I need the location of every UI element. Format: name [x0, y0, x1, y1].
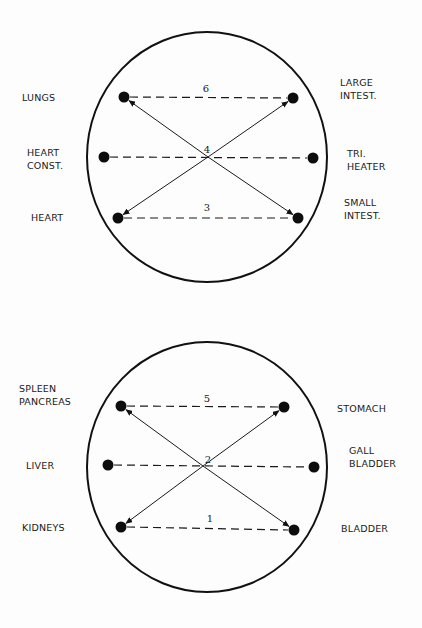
label-line: GALL: [349, 445, 375, 456]
heart-constrictor-dot: [99, 152, 110, 163]
bladder-label: BLADDER: [341, 523, 388, 534]
pair-number-label: 6: [203, 83, 209, 94]
label-line: BLADDER: [341, 523, 388, 534]
liver-label: LIVER: [26, 460, 54, 471]
diagram-top: 634LUNGSLARGEINTEST.HEARTCONST.TRI.HEATE…: [22, 32, 386, 282]
dashed-connector-liver-gall-bladder: [114, 465, 308, 467]
arrow-to-spleen-pancreas: [126, 410, 203, 466]
dashed-connector-kidneys-bladder: [127, 527, 288, 530]
label-line: LIVER: [26, 460, 54, 471]
label-line: INTEST.: [340, 90, 377, 101]
kidneys-label: KIDNEYS: [22, 522, 65, 533]
dashed-connector-lungs-large-intestine: [130, 97, 287, 98]
small-intestine-dot: [293, 213, 304, 224]
heart-dot: [113, 213, 124, 224]
label-line: TRI.: [346, 148, 366, 159]
lungs-dot: [119, 92, 130, 103]
label-line: CONST.: [27, 160, 63, 171]
arrow-to-kidneys: [126, 466, 203, 523]
pair-number-label: 1: [207, 513, 213, 524]
spleen-pancreas-dot: [116, 401, 127, 412]
label-line: KIDNEYS: [22, 522, 65, 533]
stomach-dot: [279, 402, 290, 413]
diagram-bottom: 512SPLEENPANCREASSTOMACHLIVERGALLBLADDER…: [19, 342, 396, 592]
label-line: BLADDER: [349, 458, 396, 469]
arrow-to-small-intestine: [208, 157, 293, 215]
triple-heater-dot: [308, 153, 319, 164]
label-line: SMALL: [344, 197, 377, 208]
label-line: LARGE: [340, 77, 373, 88]
pair-number-label: 5: [204, 393, 210, 404]
spleen-pancreas-label: SPLEENPANCREAS: [19, 383, 71, 407]
label-line: SPLEEN: [19, 383, 56, 394]
center-number-label: 2: [205, 454, 211, 465]
cycle-circle: [87, 342, 327, 592]
pair-number-label: 3: [204, 202, 210, 213]
dashed-connector-spleen-pancreas-stomach: [127, 406, 278, 407]
small-intestine-label: SMALLINTEST.: [344, 197, 381, 221]
kidneys-dot: [116, 522, 127, 533]
gall-bladder-label: GALLBLADDER: [349, 445, 396, 469]
gall-bladder-dot: [309, 462, 320, 473]
heart-constrictor-label: HEARTCONST.: [27, 147, 63, 171]
arrow-to-heart: [123, 157, 208, 215]
bladder-dot: [289, 525, 300, 536]
label-line: HEART: [27, 147, 59, 158]
large-intestine-dot: [288, 93, 299, 104]
label-line: INTEST.: [344, 210, 381, 221]
arrow-to-lungs: [129, 100, 208, 157]
label-line: LUNGS: [22, 92, 55, 103]
heart-label: HEART: [31, 212, 63, 223]
center-number-label: 4: [204, 144, 210, 155]
label-line: STOMACH: [337, 403, 386, 414]
large-intestine-label: LARGEINTEST.: [340, 77, 377, 101]
arrow-to-bladder: [203, 466, 289, 527]
arrow-to-large-intestine: [208, 101, 288, 157]
organ-cycle-diagram: 634LUNGSLARGEINTEST.HEARTCONST.TRI.HEATE…: [0, 0, 422, 628]
label-line: HEART: [31, 212, 63, 223]
triple-heater-label: TRI.HEATER: [346, 148, 386, 172]
label-line: HEATER: [347, 161, 386, 172]
stomach-label: STOMACH: [337, 403, 386, 414]
label-line: PANCREAS: [19, 396, 71, 407]
liver-dot: [103, 460, 114, 471]
arrow-to-stomach: [203, 411, 279, 466]
lungs-label: LUNGS: [22, 92, 55, 103]
diagrams-container: 634LUNGSLARGEINTEST.HEARTCONST.TRI.HEATE…: [19, 32, 396, 592]
